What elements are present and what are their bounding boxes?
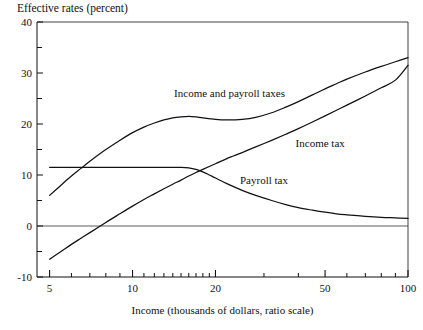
chart-title: Effective rates (percent): [17, 2, 128, 15]
series-label-income-tax: Income tax: [296, 137, 346, 149]
series-label-payroll-tax: Payroll tax: [240, 174, 288, 186]
series-line-income-and-payroll-taxes: [50, 58, 408, 196]
y-axis-tick-label: 0: [27, 220, 33, 232]
y-axis-tick-label: -10: [17, 271, 32, 283]
axis-frame: [37, 22, 408, 277]
y-axis-tick-label: 20: [21, 118, 33, 130]
y-axis-tick-label: 10: [21, 169, 33, 181]
x-axis-tick-label: 50: [320, 282, 332, 294]
chart-canvas: -100102030405102050100Income and payroll…: [0, 0, 423, 330]
x-axis-tick-label: 10: [127, 282, 139, 294]
x-axis-tick-label: 100: [400, 282, 417, 294]
y-axis-tick-label: 30: [21, 67, 33, 79]
chart-figure: -100102030405102050100Income and payroll…: [0, 0, 423, 330]
y-axis-tick-label: 40: [21, 16, 33, 28]
x-axis-label: Income (thousands of dollars, ratio scal…: [131, 304, 313, 317]
x-axis-tick-label: 5: [47, 282, 53, 294]
series-line-payroll-tax: [50, 167, 408, 218]
x-axis-tick-label: 20: [210, 282, 222, 294]
series-label-income-and-payroll-taxes: Income and payroll taxes: [174, 87, 285, 99]
